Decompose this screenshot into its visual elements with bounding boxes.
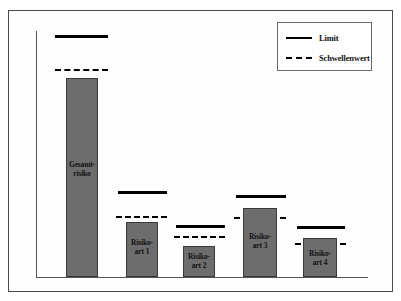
- bar-label-gesamtrisiko: Gesamt- risiko: [67, 161, 97, 178]
- y-axis-line: [36, 31, 37, 278]
- legend-item-limit: Limit: [278, 29, 371, 47]
- legend-label-limit: Limit: [319, 34, 339, 43]
- bar-risikoart-2[interactable]: Risiko- art 2: [183, 246, 215, 277]
- plot-area: Gesamt- risiko Risiko- art 1 Risiko- art…: [0, 0, 401, 301]
- bar-label-line2: art 3: [244, 242, 276, 251]
- threshold-line-risikoart-2: [174, 236, 225, 238]
- bar-risikoart-3[interactable]: Risiko- art 3: [243, 208, 277, 277]
- bar-risikoart-1[interactable]: Risiko- art 1: [126, 222, 158, 277]
- legend-label-schwellenwert: Schwellenwert: [319, 54, 370, 63]
- limit-line-risikoart-1: [118, 191, 167, 194]
- chart-figure: Gesamt- risiko Risiko- art 1 Risiko- art…: [0, 0, 401, 301]
- bar-label-line1: Risiko-: [127, 239, 157, 248]
- bar-label-line1: Risiko-: [244, 233, 276, 242]
- bar-risikoart-4[interactable]: Risiko- art 4: [303, 238, 337, 277]
- legend-solid-line-icon: [286, 37, 312, 40]
- bar-label-risikoart-1: Risiko- art 1: [127, 239, 157, 256]
- bar-label-line2: art 1: [127, 248, 157, 257]
- chart-legend: Limit Schwellenwert: [277, 22, 372, 71]
- bar-label-risikoart-3: Risiko- art 3: [244, 233, 276, 250]
- bar-label-line1: Gesamt-: [67, 161, 97, 170]
- bar-label-risikoart-2: Risiko- art 2: [184, 253, 214, 270]
- limit-line-risikoart-4: [297, 226, 345, 229]
- bar-label-line1: Risiko-: [304, 250, 336, 259]
- legend-dashed-line-icon: [286, 57, 312, 59]
- bar-label-line2: risiko: [67, 170, 97, 179]
- bar-label-line2: art 2: [184, 262, 214, 271]
- legend-item-schwellenwert: Schwellenwert: [278, 49, 371, 67]
- limit-line-risikoart-3: [236, 195, 286, 198]
- bar-label-risikoart-4: Risiko- art 4: [304, 250, 336, 267]
- threshold-line-risikoart-1: [116, 216, 167, 218]
- bar-gesamtrisiko[interactable]: Gesamt- risiko: [66, 78, 98, 277]
- limit-line-risikoart-2: [176, 225, 225, 228]
- limit-line-gesamtrisiko: [55, 35, 108, 38]
- x-axis-baseline: [36, 277, 368, 278]
- bar-label-line1: Risiko-: [184, 253, 214, 262]
- bar-label-line2: art 4: [304, 259, 336, 268]
- threshold-line-gesamtrisiko: [55, 69, 108, 71]
